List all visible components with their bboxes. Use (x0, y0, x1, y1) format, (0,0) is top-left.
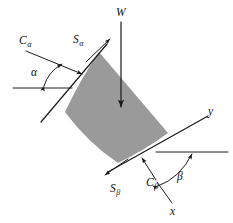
angle-alpha-label: α (31, 66, 38, 78)
cohesion-alpha-subscript: α (27, 40, 32, 49)
shear-beta-subscript: β (115, 188, 120, 197)
shear-alpha-subscript: α (79, 39, 84, 48)
free-body-diagram: W Sα Cα α Sβ Cβ β x y (0, 0, 233, 223)
y-axis-label: y (207, 105, 214, 118)
soil-wedge-body (65, 52, 168, 163)
weight-label: W (116, 6, 127, 18)
shear-beta-label: Sβ (110, 182, 120, 197)
soil-wedge (65, 52, 168, 163)
x-axis-line (157, 182, 172, 203)
angle-alpha-arc (44, 64, 62, 86)
diagram-root: W Sα Cα α Sβ Cβ β x y (0, 0, 233, 223)
x-axis-label: x (169, 205, 176, 217)
shear-beta-symbol: S (110, 182, 116, 194)
cohesion-alpha-symbol: C (19, 34, 27, 46)
angle-beta-arc (158, 154, 192, 186)
cohesion-beta-label: Cβ (146, 176, 158, 191)
shear-alpha-symbol: S (73, 33, 79, 45)
cohesion-beta-symbol: C (146, 176, 154, 188)
cohesion-alpha-label: Cα (19, 34, 32, 49)
angle-beta-label: β (176, 170, 183, 183)
shear-alpha-label: Sα (73, 33, 84, 48)
